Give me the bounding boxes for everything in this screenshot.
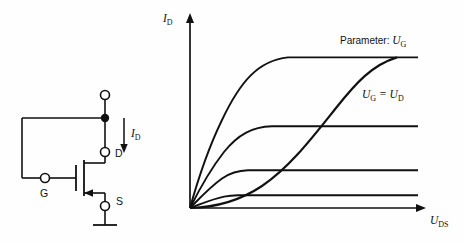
source-arrow-icon — [84, 189, 93, 197]
source-label: S — [116, 195, 123, 207]
load-curve-ug-equals-ud — [190, 57, 397, 208]
y-axis-label: ID — [162, 12, 173, 27]
load-curve-annotation: UG = UD — [362, 88, 404, 103]
drain-terminal-circle-icon — [101, 148, 110, 157]
top-terminal-circle-icon — [101, 91, 110, 100]
drain-label: D — [115, 147, 123, 159]
gate-label: G — [40, 187, 48, 199]
output-curve-4 — [190, 57, 418, 208]
figure-root: ID D G S ID UDS — [0, 0, 463, 243]
x-axis-arrow-icon — [416, 204, 426, 212]
circuit-group — [22, 91, 128, 226]
y-axis-arrow-icon — [186, 13, 194, 23]
source-terminal-circle-icon — [101, 202, 110, 211]
circuit-current-label: ID — [130, 127, 141, 142]
gate-terminal-circle-icon — [41, 174, 50, 183]
x-axis-label: UDS — [430, 214, 449, 229]
figure-canvas: ID D G S ID UDS — [0, 0, 463, 243]
parameter-annotation: Parameter: UG — [340, 34, 407, 49]
output-curve-1 — [190, 195, 418, 208]
